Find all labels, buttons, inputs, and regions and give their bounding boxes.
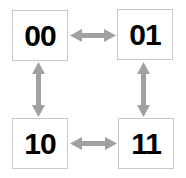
node-10: 10	[12, 118, 68, 169]
node-label: 01	[129, 18, 160, 52]
arrow-01-11	[137, 62, 150, 117]
node-00: 00	[12, 10, 68, 61]
node-11: 11	[118, 118, 174, 169]
node-01: 01	[117, 9, 173, 60]
arrow-10-11	[70, 137, 117, 150]
arrow-00-10	[32, 62, 45, 117]
node-label: 00	[24, 19, 55, 53]
arrow-00-01	[70, 29, 116, 42]
node-label: 10	[24, 127, 55, 161]
node-label: 11	[131, 127, 161, 161]
